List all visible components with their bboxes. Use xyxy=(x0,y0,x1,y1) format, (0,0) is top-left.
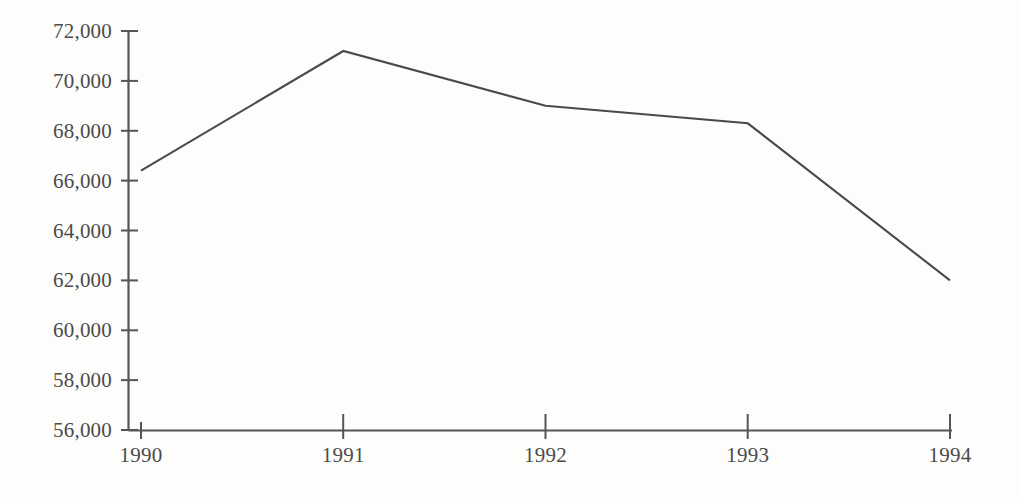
x-tick-label-1992: 1992 xyxy=(486,445,606,466)
x-tick-label-1994: 1994 xyxy=(890,445,1010,466)
y-tick-label-72000: 72,000 xyxy=(0,21,112,42)
y-tick-label-62000: 62,000 xyxy=(0,270,112,291)
y-tick-label-56000: 56,000 xyxy=(0,420,112,441)
x-tick-marks xyxy=(141,414,950,439)
y-tick-label-70000: 70,000 xyxy=(0,71,112,92)
x-tick-label-1991: 1991 xyxy=(283,445,403,466)
y-tick-label-68000: 68,000 xyxy=(0,121,112,142)
y-tick-label-60000: 60,000 xyxy=(0,320,112,341)
plot-area xyxy=(0,0,1021,497)
y-tick-label-58000: 58,000 xyxy=(0,370,112,391)
y-tick-label-66000: 66,000 xyxy=(0,171,112,192)
x-tick-label-1990: 1990 xyxy=(81,445,201,466)
x-tick-label-1993: 1993 xyxy=(688,445,808,466)
data-series-line xyxy=(141,51,950,280)
line-chart: 72,000 70,000 68,000 66,000 64,000 62,00… xyxy=(0,0,1021,497)
y-tick-label-64000: 64,000 xyxy=(0,221,112,242)
